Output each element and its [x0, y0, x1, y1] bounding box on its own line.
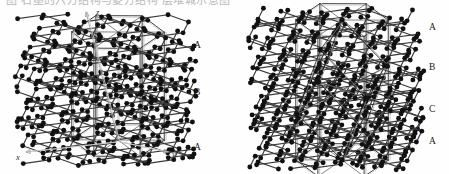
figure-root: 图 石墨的六方结构与菱方结构 层堆城示意图 ABAzxyABCA [0, 0, 449, 174]
axis-label-z: z [95, 7, 100, 17]
right-layer-label-c-2: C [429, 104, 435, 114]
diagram-labels: ABAzxyABCA [0, 0, 449, 174]
axis-label-y: y [171, 149, 176, 159]
left-layer-label-a-2: A [194, 142, 201, 152]
axis-label-x: x [15, 152, 20, 162]
right-layer-label-b-1: B [429, 62, 435, 72]
left-layer-label-a-0: A [194, 40, 201, 50]
right-layer-label-a-3: A [429, 136, 436, 146]
left-layer-label-b-1: B [194, 87, 200, 97]
right-layer-label-a-0: A [429, 22, 436, 32]
